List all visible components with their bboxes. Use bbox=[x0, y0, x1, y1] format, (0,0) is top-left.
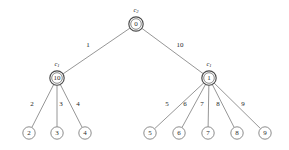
edge-weight-left-leaf2: 2 bbox=[30, 100, 34, 108]
node-label-1: 1 bbox=[207, 74, 211, 82]
tree-edge-left-leaf2 bbox=[32, 84, 54, 127]
tree-node-4[interactable]: 4 bbox=[79, 127, 91, 139]
tree-node-6[interactable]: 6 bbox=[173, 127, 185, 139]
node-label-7: 7 bbox=[206, 129, 210, 137]
tree-edge-right-leaf5 bbox=[155, 83, 204, 129]
tree-canvas: 010123456789 11023456789 c2c1c1 bbox=[0, 0, 289, 150]
tree-diagram: 010123456789 11023456789 c2c1c1 bbox=[0, 0, 289, 150]
tree-edge-right-leaf9 bbox=[214, 83, 260, 129]
edge-weight-right-leaf8: 8 bbox=[216, 100, 220, 108]
edge-weight-left-leaf4: 4 bbox=[76, 100, 80, 108]
node-label-0: 0 bbox=[134, 20, 138, 28]
tree-node-3[interactable]: 3 bbox=[51, 127, 63, 139]
cluster-label-right: c1 bbox=[206, 60, 211, 68]
node-label-3: 3 bbox=[55, 129, 59, 137]
edges-layer bbox=[32, 28, 261, 129]
tree-node-0[interactable]: 0 bbox=[129, 17, 143, 31]
nodes-layer: 010123456789 bbox=[23, 17, 271, 139]
tree-edge-right-leaf7 bbox=[208, 85, 209, 127]
edge-weight-root-left: 1 bbox=[86, 41, 90, 49]
edge-weight-right-leaf9: 9 bbox=[241, 100, 245, 108]
edge-weight-root-right: 10 bbox=[177, 41, 185, 49]
node-label-6: 6 bbox=[177, 129, 181, 137]
tree-node-7[interactable]: 7 bbox=[202, 127, 214, 139]
edge-weight-right-leaf5: 5 bbox=[165, 100, 169, 108]
edge-weight-right-leaf7: 7 bbox=[200, 100, 204, 108]
tree-edge-root-left bbox=[63, 28, 130, 74]
tree-node-9[interactable]: 9 bbox=[259, 127, 271, 139]
edge-weight-right-leaf6: 6 bbox=[183, 100, 187, 108]
node-label-9: 9 bbox=[263, 129, 267, 137]
node-label-10: 10 bbox=[54, 74, 62, 82]
tree-node-10[interactable]: 10 bbox=[50, 71, 64, 85]
node-label-8: 8 bbox=[235, 129, 239, 137]
tree-node-2[interactable]: 2 bbox=[23, 127, 35, 139]
tree-node-5[interactable]: 5 bbox=[144, 127, 156, 139]
node-label-2: 2 bbox=[27, 129, 31, 137]
tree-node-1[interactable]: 1 bbox=[202, 71, 216, 85]
node-label-4: 4 bbox=[83, 129, 87, 137]
node-label-5: 5 bbox=[148, 129, 152, 137]
cluster-labels-layer: c2c1c1 bbox=[54, 6, 211, 68]
cluster-label-root: c2 bbox=[133, 6, 139, 14]
tree-edge-root-right bbox=[142, 28, 203, 73]
edge-weight-left-leaf3: 3 bbox=[59, 100, 63, 108]
tree-node-8[interactable]: 8 bbox=[231, 127, 243, 139]
cluster-label-left: c1 bbox=[54, 60, 59, 68]
